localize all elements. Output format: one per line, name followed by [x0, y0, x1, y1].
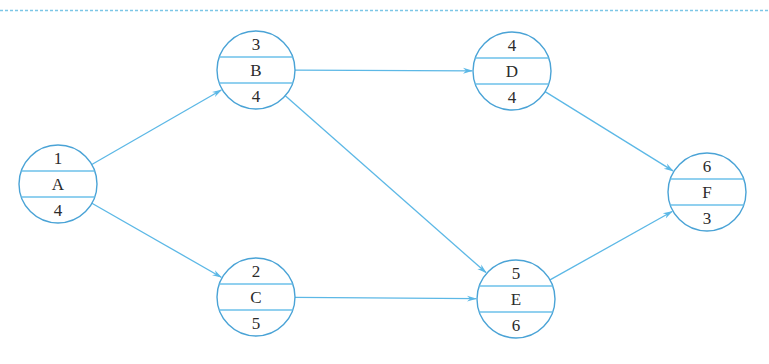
node-sequence-number: 5: [512, 264, 521, 283]
node-sequence-number: 1: [54, 149, 63, 168]
edge-d-f: [545, 92, 673, 171]
edge-c-e: [295, 297, 476, 298]
node-d: 4D4: [473, 32, 551, 110]
node-activity-label: E: [511, 290, 521, 309]
node-activity-label: F: [702, 183, 711, 202]
node-sequence-number: 2: [252, 262, 261, 281]
edge-a-c: [92, 203, 221, 277]
node-c: 2C5: [217, 258, 295, 336]
node-sequence-number: 4: [508, 36, 517, 55]
edge-a-b: [92, 90, 222, 165]
node-duration: 3: [703, 209, 712, 228]
node-duration: 4: [508, 88, 517, 107]
node-duration: 5: [252, 314, 261, 333]
edge-e-f: [550, 212, 672, 280]
edge-b-e: [285, 96, 486, 273]
node-sequence-number: 3: [252, 35, 261, 54]
node-activity-label: A: [52, 175, 65, 194]
network-diagram: 1A43B42C54D45E66F3: [0, 0, 769, 364]
edge-b-d: [295, 70, 472, 71]
node-duration: 4: [252, 87, 261, 106]
node-a: 1A4: [19, 145, 97, 223]
node-activity-label: D: [506, 62, 518, 81]
edges-layer: [92, 70, 673, 299]
node-activity-label: B: [250, 61, 261, 80]
node-b: 3B4: [217, 31, 295, 109]
node-e: 5E6: [477, 260, 555, 338]
node-duration: 6: [512, 316, 521, 335]
nodes-layer: 1A43B42C54D45E66F3: [19, 31, 746, 338]
node-activity-label: C: [250, 288, 261, 307]
node-sequence-number: 6: [703, 157, 712, 176]
node-duration: 4: [54, 201, 63, 220]
node-f: 6F3: [668, 153, 746, 231]
